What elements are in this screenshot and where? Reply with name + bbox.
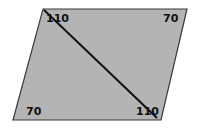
- parallelogram-diagram: 110 70 70 110: [0, 0, 198, 130]
- angle-label-bottom-left: 70: [26, 105, 42, 118]
- angle-label-top-left: 110: [46, 12, 69, 25]
- angle-label-top-right: 70: [163, 12, 179, 25]
- angle-label-bottom-right: 110: [136, 105, 159, 118]
